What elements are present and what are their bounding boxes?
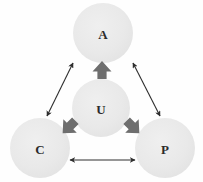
diagram-canvas: A U C P	[0, 0, 203, 182]
node-label-A: A	[98, 27, 108, 42]
node-label-P: P	[161, 142, 169, 157]
node-group-P[interactable]: P	[135, 118, 195, 178]
thin-arrow-c-a[interactable]	[47, 63, 73, 116]
block-arrow-u-to-a[interactable]	[93, 61, 112, 79]
block-arrow-shape-up	[93, 61, 112, 79]
node-label-U: U	[96, 102, 106, 117]
diagram-svg: A U C P	[0, 0, 203, 182]
node-group-C[interactable]: C	[10, 118, 70, 178]
node-group-U[interactable]: U	[72, 79, 130, 137]
thin-arrow-a-p[interactable]	[133, 63, 160, 116]
node-label-C: C	[35, 142, 44, 157]
node-group-A[interactable]: A	[73, 3, 133, 63]
